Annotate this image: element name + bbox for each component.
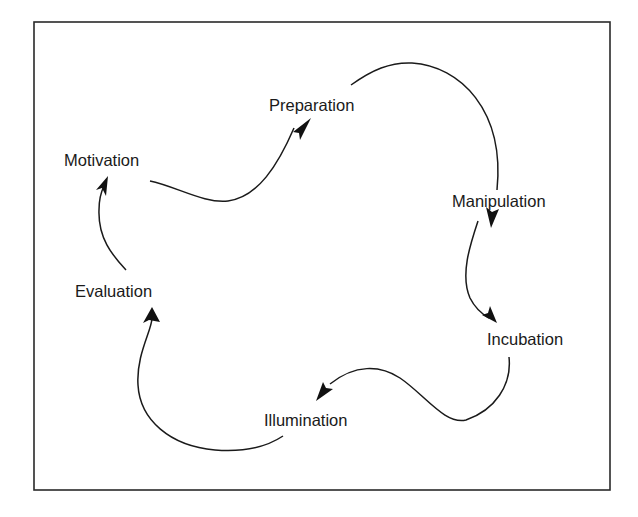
stage-label-illumination: Illumination [264,411,347,429]
arrowhead-icon [486,207,499,228]
arrowhead-icon [293,118,311,140]
arrowhead-icon [482,306,497,323]
creative-process-cycle-diagram: Motivation Preparation Manipulation Incu… [0,0,638,517]
stage-label-incubation: Incubation [487,330,563,348]
stage-label-motivation: Motivation [64,151,139,169]
arrow-manipulation-to-incubation [466,221,497,323]
stage-label-preparation: Preparation [269,96,354,114]
stage-label-evaluation: Evaluation [75,282,152,300]
arrow-evaluation-to-motivation [96,176,126,270]
stage-label-manipulation: Manipulation [452,192,546,210]
arrow-motivation-to-preparation [150,118,311,201]
arrow-illumination-to-evaluation [138,307,283,450]
arrowhead-icon [316,382,333,401]
